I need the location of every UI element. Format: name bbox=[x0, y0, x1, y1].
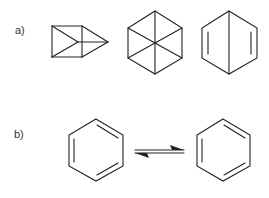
hexagon-with-diagonals-structure bbox=[128, 11, 182, 74]
diagram-canvas: a) b) bbox=[0, 0, 269, 198]
benzene-1-structure bbox=[69, 119, 123, 181]
equilibrium-arrows bbox=[135, 145, 184, 158]
panel-b-label: b) bbox=[14, 128, 24, 140]
benzene-2-structure bbox=[197, 119, 250, 181]
dewar-benzene-structure bbox=[202, 11, 257, 74]
prismane-structure bbox=[52, 26, 108, 57]
panel-a-label: a) bbox=[15, 24, 25, 36]
